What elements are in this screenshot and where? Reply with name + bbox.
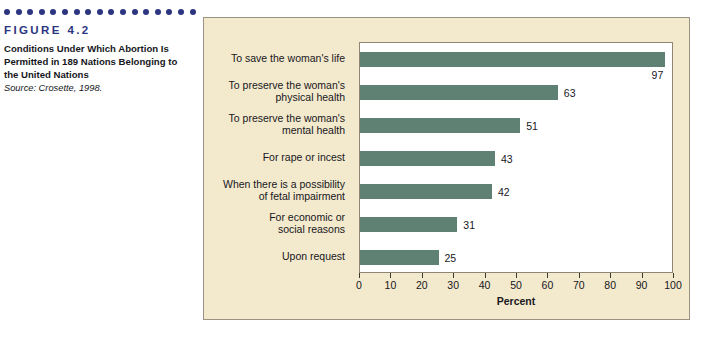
x-axis-tick-label: 50 (510, 279, 522, 291)
category-label: When there is a possibilityof fetal impa… (197, 178, 352, 204)
x-axis-tick-label: 70 (573, 279, 585, 291)
bar-row[interactable]: 97 (360, 52, 672, 67)
x-axis-tick (516, 273, 517, 278)
decorative-dot (155, 9, 161, 15)
figure-container: FIGURE 4.2 Conditions Under Which Aborti… (0, 0, 721, 342)
bar-value-label: 97 (652, 69, 664, 81)
category-label: To save the woman's life (197, 52, 352, 65)
decorative-dot (62, 9, 68, 15)
decorative-dot (120, 9, 126, 15)
decorative-dot-row (4, 6, 196, 18)
x-axis-tick (642, 273, 643, 278)
bar-chart: To save the woman's lifeTo preserve the … (204, 18, 689, 319)
category-label-line: Upon request (197, 250, 345, 263)
x-axis-tick (422, 273, 423, 278)
x-axis-tick-label: 100 (664, 279, 682, 291)
decorative-dot (143, 9, 149, 15)
x-axis-tick-label: 90 (636, 279, 648, 291)
x-axis-tick (453, 273, 454, 278)
decorative-dot (74, 9, 80, 15)
x-axis-tick-label: 60 (542, 279, 554, 291)
x-axis-tick-label: 40 (479, 279, 491, 291)
x-axis-tick (610, 273, 611, 278)
decorative-dot (85, 9, 91, 15)
category-axis-labels: To save the woman's lifeTo preserve the … (204, 42, 352, 273)
plot-area: 97635143423125 (359, 42, 673, 273)
bar[interactable] (360, 118, 520, 133)
category-label-line: To save the woman's life (197, 52, 345, 65)
x-axis-tick (673, 273, 674, 278)
chart-panel: To save the woman's lifeTo preserve the … (203, 17, 690, 320)
category-label-line: To preserve the woman's (197, 112, 345, 125)
x-axis-tick (579, 273, 580, 278)
category-label-line: To preserve the woman's (197, 79, 345, 92)
category-label: For rape or incest (197, 151, 352, 164)
bar[interactable] (360, 184, 492, 199)
decorative-dot (39, 9, 45, 15)
x-axis-tick-label: 80 (604, 279, 616, 291)
bar[interactable] (360, 85, 558, 100)
x-axis-tick (390, 273, 391, 278)
bar-value-label: 25 (445, 252, 457, 264)
bar-value-label: 42 (498, 186, 510, 198)
bar[interactable] (360, 151, 495, 166)
x-axis-title: Percent (359, 295, 673, 307)
bar-row[interactable]: 31 (360, 217, 672, 232)
figure-source: Source: Crosette, 1998. (4, 82, 196, 95)
decorative-dot (190, 9, 196, 15)
bar-row[interactable]: 25 (360, 250, 672, 265)
bar-row[interactable]: 51 (360, 118, 672, 133)
x-axis-tick-label: 30 (447, 279, 459, 291)
bar-value-label: 63 (564, 87, 576, 99)
figure-title: Conditions Under Which Abortion Is Permi… (4, 42, 180, 82)
x-axis: Percent 0102030405060708090100 (359, 273, 673, 315)
bar[interactable] (360, 250, 439, 265)
bar-rows: 97635143423125 (360, 43, 672, 272)
x-axis-tick-label: 20 (416, 279, 428, 291)
decorative-dot (132, 9, 138, 15)
category-label-line: For economic or (197, 211, 345, 224)
decorative-dot (4, 9, 10, 15)
x-axis-tick-label: 0 (356, 279, 362, 291)
category-label: To preserve the woman'sphysical health (197, 79, 352, 105)
category-label-line: physical health (197, 91, 345, 104)
bar-row[interactable]: 63 (360, 85, 672, 100)
category-label: Upon request (197, 250, 352, 263)
x-axis-tick-label: 10 (385, 279, 397, 291)
bar-row[interactable]: 43 (360, 151, 672, 166)
category-label-line: mental health (197, 124, 345, 137)
x-axis-tick (485, 273, 486, 278)
bar[interactable] (360, 52, 665, 67)
bar-value-label: 51 (526, 120, 538, 132)
x-axis-tick (547, 273, 548, 278)
category-label-line: When there is a possibility (197, 178, 345, 191)
bar-value-label: 43 (501, 153, 513, 165)
decorative-dot (108, 9, 114, 15)
bar[interactable] (360, 217, 457, 232)
decorative-dot (97, 9, 103, 15)
category-label: To preserve the woman'smental health (197, 112, 352, 138)
category-label-line: For rape or incest (197, 151, 345, 164)
bar-value-label: 31 (463, 219, 475, 231)
category-label-line: of fetal impairment (197, 190, 345, 203)
x-axis-tick (359, 273, 360, 278)
category-label: For economic orsocial reasons (197, 211, 352, 237)
bar-row[interactable]: 42 (360, 184, 672, 199)
decorative-dot (27, 9, 33, 15)
figure-caption-block: FIGURE 4.2 Conditions Under Which Aborti… (4, 6, 196, 95)
decorative-dot (16, 9, 22, 15)
decorative-dot (178, 9, 184, 15)
decorative-dot (166, 9, 172, 15)
figure-number-label: FIGURE 4.2 (4, 24, 196, 37)
decorative-dot (50, 9, 56, 15)
category-label-line: social reasons (197, 223, 345, 236)
